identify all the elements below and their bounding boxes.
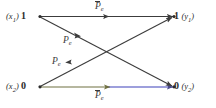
edge-label-bottom-straight: Pe [95, 91, 104, 101]
edge-top-symbol: P [95, 2, 101, 12]
node-label-input-bottom: (x2) 0 [6, 81, 26, 93]
edge-cross-down-symbol: P [63, 36, 69, 46]
edge-cross-up-subscript: e [58, 60, 61, 67]
node-x1-paren-close: ) [16, 11, 19, 21]
node-y1-bit: 1 [174, 10, 179, 21]
node-label-input-top: (x1) 1 [6, 11, 26, 23]
node-label-output-top: 1 (y1) [174, 11, 194, 23]
node-dot-x2 [38, 85, 41, 88]
node-dot-x1 [38, 15, 41, 18]
node-x1-bit: 1 [21, 10, 26, 21]
node-x2-bit: 0 [21, 80, 26, 91]
edge-cross-up-symbol: P [52, 57, 58, 67]
edge-cross-up-midarrow [65, 60, 72, 65]
edge-cross-down-subscript: e [69, 39, 72, 46]
node-x2-paren-close: ) [16, 81, 19, 91]
edge-bottom-symbol: P [95, 91, 101, 101]
node-y1-paren-close: ) [191, 11, 194, 21]
edge-bottom-subscript: e [101, 94, 104, 101]
node-y2-bit: 0 [174, 80, 179, 91]
node-y2-paren-close: ) [191, 81, 194, 91]
edge-label-top-straight: Pe [95, 2, 104, 12]
edge-label-cross-up: Pe [52, 57, 61, 67]
edge-top-subscript: e [101, 5, 104, 12]
edge-label-cross-down: Pe [63, 36, 72, 46]
node-label-output-bottom: 0 (y2) [174, 81, 194, 93]
bsc-diagram: (x1) 1 (x2) 0 1 (y1) 0 (y2) Pe Pe Pe Pe [0, 0, 216, 108]
